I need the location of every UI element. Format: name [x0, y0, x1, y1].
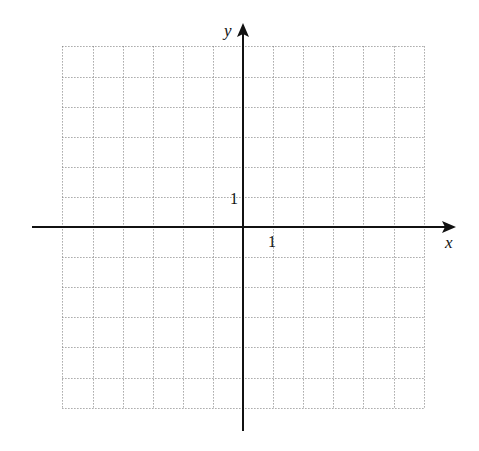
- x-tick-label-1: 1: [268, 233, 276, 250]
- y-axis-label: y: [222, 21, 232, 40]
- coordinate-plane: x y 1 1: [0, 0, 479, 451]
- y-tick-label-1: 1: [230, 190, 238, 207]
- x-axis-label: x: [444, 233, 453, 252]
